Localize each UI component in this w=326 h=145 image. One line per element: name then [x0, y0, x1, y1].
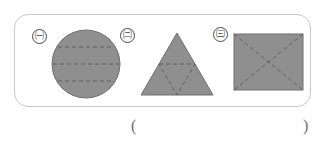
- rectangle-shape: [232, 28, 306, 100]
- figure-box: ㈠ ㈡ ㈢: [14, 14, 311, 107]
- answer-paren-open: (: [131, 114, 136, 138]
- shape-marker-a: ㈠: [32, 29, 47, 44]
- shape-marker-c: ㈢: [213, 27, 228, 42]
- circle-shape: [48, 28, 124, 100]
- shape-marker-b: ㈡: [120, 28, 135, 43]
- answer-blank[interactable]: ( ): [14, 114, 312, 138]
- triangle-shape: [137, 27, 217, 99]
- answer-paren-close: ): [303, 114, 308, 138]
